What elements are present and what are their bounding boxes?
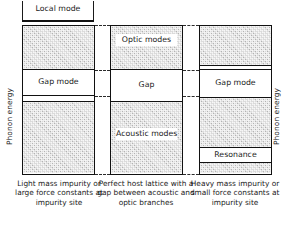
connector-gap-bottom-left xyxy=(95,96,110,97)
band-optic-modes: Optic modes xyxy=(111,26,182,70)
panel-light-mass: Gap mode xyxy=(22,25,95,175)
axis-label-right: Phonon energy xyxy=(272,77,281,157)
band-acoustic-modes: Acoustic modes xyxy=(111,102,182,173)
local-mode-label: Local mode xyxy=(22,4,94,13)
panel-perfect-host: Optic modes Gap Acoustic modes xyxy=(110,25,183,175)
band-lower-continuum-light xyxy=(23,102,94,173)
connector-gap-top-right xyxy=(183,70,199,71)
connector-top-left xyxy=(95,25,110,26)
band-bottom-continuum-heavy xyxy=(200,163,271,173)
panel-heavy-mass: Gap mode Resonance xyxy=(199,25,272,175)
band-label-gap-mode-heavy: Gap mode xyxy=(200,78,271,88)
caption-perfect-host: Perfect host lattice with a gap between … xyxy=(96,179,196,207)
band-label-optic-modes: Optic modes xyxy=(116,34,177,46)
band-upper-continuum-heavy xyxy=(200,26,271,66)
band-gap: Gap xyxy=(111,70,182,102)
band-resonance: Resonance xyxy=(200,148,271,163)
caption-heavy-mass: Heavy mass impurity or small force const… xyxy=(186,179,284,207)
connector-top-right xyxy=(183,25,199,26)
phonon-energy-diagram: Phonon energy Phonon energy Local mode G… xyxy=(0,0,286,233)
band-label-gap: Gap xyxy=(111,80,182,90)
connector-gap-bottom-right xyxy=(183,96,199,97)
band-label-gap-mode-light: Gap mode xyxy=(23,77,94,87)
axis-label-left: Phonon energy xyxy=(5,77,14,157)
connector-bottom-right xyxy=(183,174,199,175)
bracket-bar xyxy=(22,20,94,22)
connector-bottom-left xyxy=(95,174,110,175)
local-mode-bracket: Local mode xyxy=(22,1,94,25)
band-label-resonance: Resonance xyxy=(200,150,271,160)
band-gap-mode-light: Gap mode xyxy=(23,70,94,96)
connector-gap-top-left xyxy=(95,70,110,71)
caption-light-mass: Light mass impurity or large force const… xyxy=(10,179,108,207)
band-gap-mode-heavy: Gap mode xyxy=(200,70,271,98)
band-label-acoustic-modes: Acoustic modes xyxy=(116,128,177,140)
band-upper-continuum-light xyxy=(23,26,94,70)
band-lower-continuum-heavy xyxy=(200,98,271,148)
